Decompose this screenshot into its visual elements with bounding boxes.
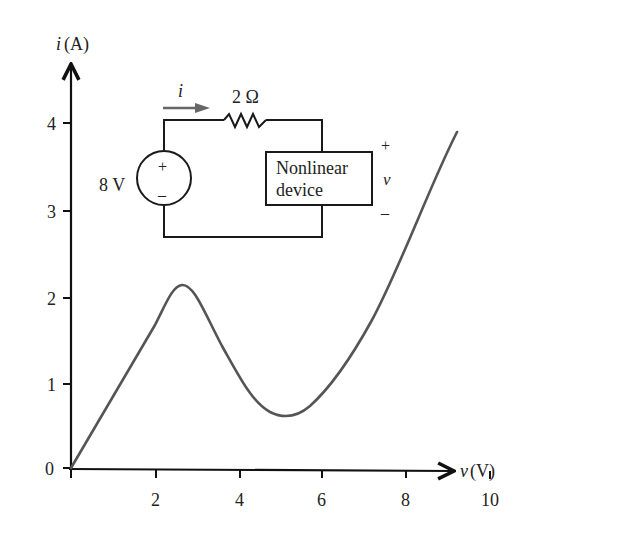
voltage-var: v bbox=[383, 170, 391, 189]
current-arrow-icon bbox=[195, 103, 210, 113]
x-tick-label-8: 8 bbox=[401, 490, 410, 510]
resistor-label: 2 Ω bbox=[232, 87, 259, 107]
y-axis: i (A) 0 1 2 3 4 bbox=[45, 34, 89, 479]
y-tick-label-0: 0 bbox=[45, 459, 54, 479]
y-axis-label-var: i bbox=[56, 34, 61, 54]
current-label: i bbox=[178, 81, 183, 101]
x-tick-label-2: 2 bbox=[151, 490, 160, 510]
x-axis-line bbox=[69, 469, 452, 471]
iv-characteristic-figure: i (A) 0 1 2 3 4 v (V) 2 4 6 8 10 i bbox=[0, 0, 624, 536]
y-tick-label-2: 2 bbox=[47, 289, 56, 309]
wire-bottom bbox=[164, 205, 322, 237]
source-plus: + bbox=[158, 158, 167, 175]
y-axis-label-unit: (A) bbox=[64, 34, 89, 55]
source-minus: – bbox=[157, 186, 167, 203]
resistor-icon bbox=[224, 114, 266, 127]
x-tick-label-4: 4 bbox=[235, 490, 244, 510]
iv-curve bbox=[71, 132, 457, 468]
y-tick-label-1: 1 bbox=[47, 375, 56, 395]
inset-circuit: i 2 Ω + – 8 V Nonlinear device + v – bbox=[99, 81, 391, 237]
x-axis-label-unit: (V) bbox=[470, 461, 495, 482]
source-label: 8 V bbox=[99, 175, 125, 195]
wire-left-top bbox=[164, 120, 224, 150]
x-axis: v (V) 2 4 6 8 10 bbox=[69, 461, 499, 510]
device-label-line2: device bbox=[276, 180, 323, 200]
device-label-line1: Nonlinear bbox=[276, 158, 348, 178]
x-tick-label-10: 10 bbox=[481, 490, 499, 510]
voltage-minus: – bbox=[380, 204, 390, 221]
y-tick-label-3: 3 bbox=[47, 202, 56, 222]
voltage-plus: + bbox=[381, 137, 390, 154]
wire-right-top bbox=[266, 120, 322, 152]
y-tick-label-4: 4 bbox=[47, 114, 56, 134]
x-tick-label-6: 6 bbox=[317, 490, 326, 510]
x-axis-label-var: v bbox=[460, 461, 468, 481]
